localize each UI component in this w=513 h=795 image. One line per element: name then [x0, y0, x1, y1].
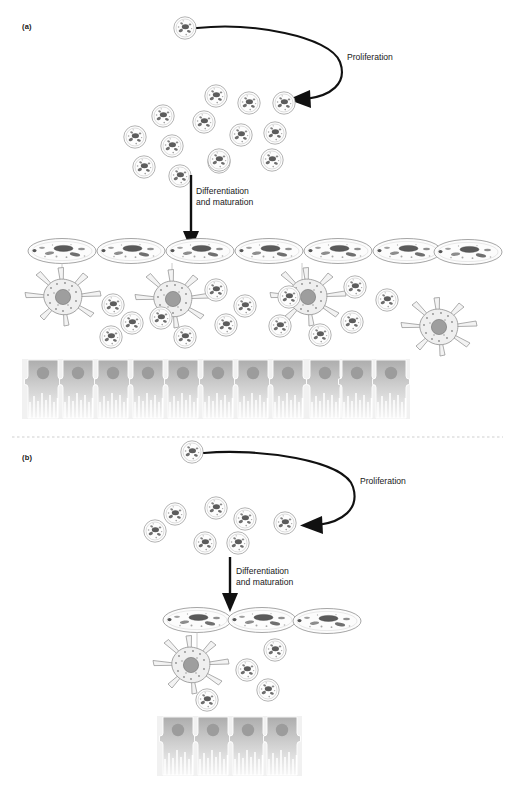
panel-a-source-cell [174, 17, 196, 39]
panel-b-differentiation-arrow [222, 557, 238, 612]
panel-b-ependymal-layer [157, 716, 302, 776]
panel-b-group [144, 441, 361, 776]
figure-canvas: (a) Proliferation Differentiation and ma… [0, 0, 513, 795]
panel-b-astrocytes [153, 636, 229, 695]
panel-b-source-cell [181, 441, 203, 463]
panel-b-proliferating-cells [144, 497, 296, 554]
panel-a-oval-cells [28, 239, 502, 265]
panel-a-proliferating-cells [124, 85, 295, 187]
diagram-artwork [0, 0, 513, 795]
panel-a-group [22, 17, 502, 419]
panel-a-scattered-cells [100, 276, 398, 348]
ependymal-cell [25, 360, 410, 418]
panel-a-ependymal-layer [22, 359, 410, 419]
panel-b-oval-cells [163, 608, 361, 634]
